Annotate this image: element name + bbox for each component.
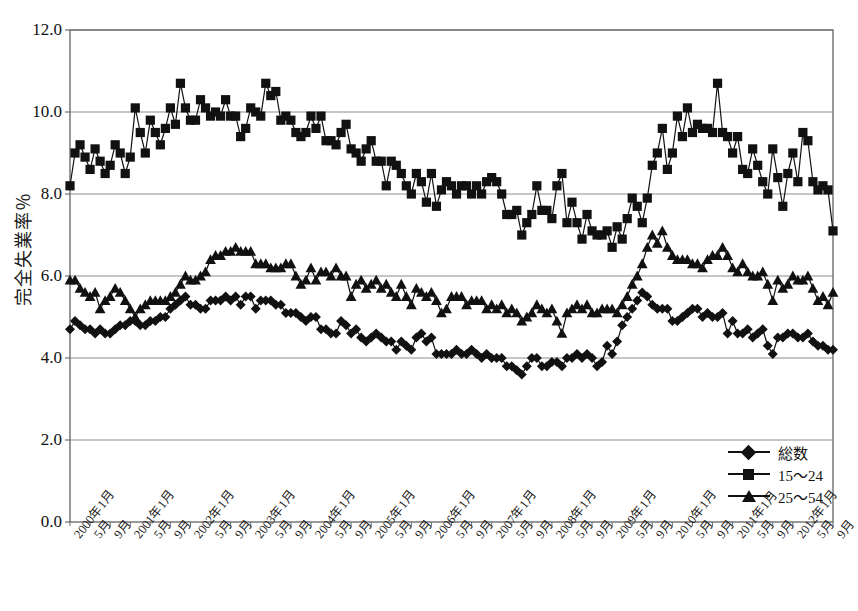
legend-marker-triangle-icon	[728, 487, 770, 505]
chart-legend: 総数15～2425～54	[728, 441, 823, 507]
legend-item: 総数	[728, 441, 823, 463]
legend-item: 25～54	[728, 485, 823, 507]
legend-label: 25～54	[778, 486, 823, 507]
legend-label: 総数	[778, 442, 808, 463]
legend-item: 15～24	[728, 463, 823, 485]
legend-marker-diamond-icon	[728, 443, 770, 461]
legend-label: 15～24	[778, 464, 823, 485]
legend-marker-square-icon	[728, 465, 770, 483]
x-tick-label: 9月	[831, 515, 858, 542]
